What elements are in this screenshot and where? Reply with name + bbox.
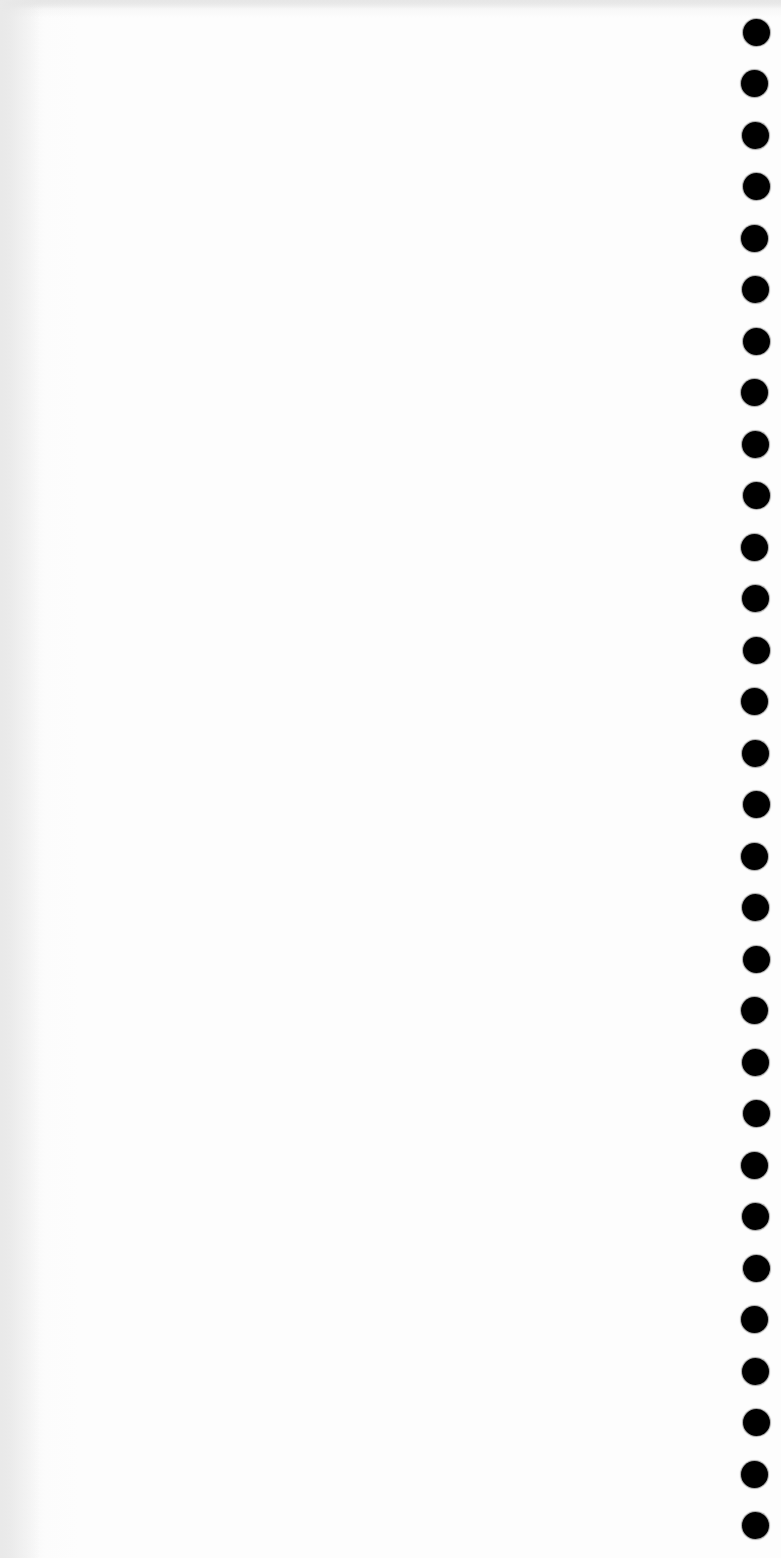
binding-hole-icon <box>741 843 768 870</box>
left-edge-shadow <box>0 0 40 1558</box>
binding-hole-icon <box>743 791 770 818</box>
binding-hole-icon <box>742 1049 769 1076</box>
binding-hole-icon <box>741 70 768 97</box>
binding-hole-icon <box>742 431 769 458</box>
binding-hole-icon <box>741 379 768 406</box>
binding-hole-icon <box>741 1152 768 1179</box>
binding-hole-icon <box>742 585 769 612</box>
top-edge-shadow <box>0 0 781 8</box>
binding-hole-icon <box>743 173 770 200</box>
binding-hole-icon <box>741 688 768 715</box>
binding-hole-icon <box>741 1461 768 1488</box>
binding-hole-icon <box>743 946 770 973</box>
binding-hole-strip <box>721 0 781 1558</box>
binding-hole-icon <box>743 637 770 664</box>
binding-hole-icon <box>741 1306 768 1333</box>
binding-hole-icon <box>742 740 769 767</box>
binding-hole-icon <box>742 276 769 303</box>
binding-hole-icon <box>741 225 768 252</box>
binding-hole-icon <box>743 482 770 509</box>
binding-hole-icon <box>741 534 768 561</box>
scanned-page <box>0 0 781 1558</box>
binding-hole-icon <box>743 19 770 46</box>
binding-hole-icon <box>743 1100 770 1127</box>
binding-hole-icon <box>742 1203 769 1230</box>
binding-hole-icon <box>742 1358 769 1385</box>
binding-hole-icon <box>742 894 769 921</box>
binding-hole-icon <box>743 328 770 355</box>
binding-hole-icon <box>742 1512 769 1539</box>
binding-hole-icon <box>741 997 768 1024</box>
binding-hole-icon <box>742 122 769 149</box>
binding-hole-icon <box>743 1255 770 1282</box>
binding-hole-icon <box>743 1409 770 1436</box>
